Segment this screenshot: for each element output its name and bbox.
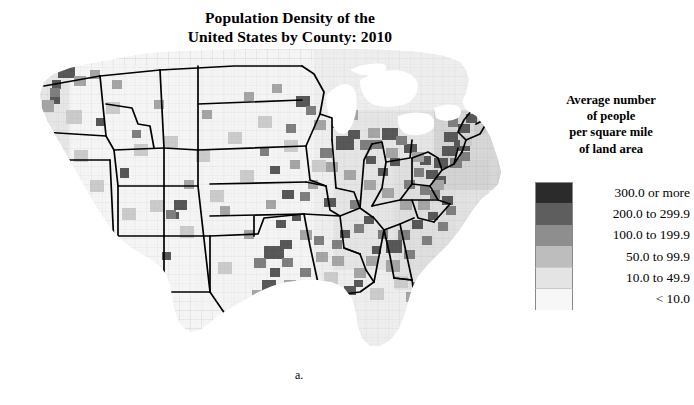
legend-swatch <box>535 182 573 203</box>
legend-row: < 10.0 <box>528 288 694 309</box>
map-legend: Average number of people per square mile… <box>528 92 694 157</box>
legend-swatch <box>535 267 573 288</box>
legend-classes: 300.0 or more 200.0 to 299.9 100.0 to 19… <box>528 182 694 310</box>
population-density-map-figure: Population Density of the United States … <box>0 0 694 405</box>
legend-swatch <box>535 288 573 309</box>
legend-row: 10.0 to 49.9 <box>528 267 694 288</box>
legend-swatch <box>535 246 573 267</box>
legend-title-line-3: per square mile <box>530 124 692 140</box>
legend-row: 200.0 to 299.9 <box>528 203 694 224</box>
legend-swatch <box>535 225 573 246</box>
legend-swatch <box>535 203 573 224</box>
legend-label: 50.0 to 99.9 <box>573 249 694 265</box>
legend-label: 100.0 to 199.9 <box>573 227 694 243</box>
legend-row: 50.0 to 99.9 <box>528 246 694 267</box>
legend-title-line-4: of land area <box>530 141 692 157</box>
choropleth-map <box>14 40 524 385</box>
legend-title-line-2: of people <box>530 108 692 124</box>
legend-row: 100.0 to 199.9 <box>528 225 694 246</box>
legend-label: < 10.0 <box>573 291 694 307</box>
legend-row: 300.0 or more <box>528 182 694 203</box>
legend-label: 200.0 to 299.9 <box>573 206 694 222</box>
map-svg <box>14 40 524 385</box>
figure-label: a. <box>295 368 303 383</box>
legend-title-line-1: Average number <box>530 92 692 108</box>
map-land-base <box>14 40 524 385</box>
page-title-line-1: Population Density of the <box>120 8 460 27</box>
legend-label: 10.0 to 49.9 <box>573 270 694 286</box>
legend-label: 300.0 or more <box>573 185 694 201</box>
legend-title: Average number of people per square mile… <box>530 92 692 157</box>
